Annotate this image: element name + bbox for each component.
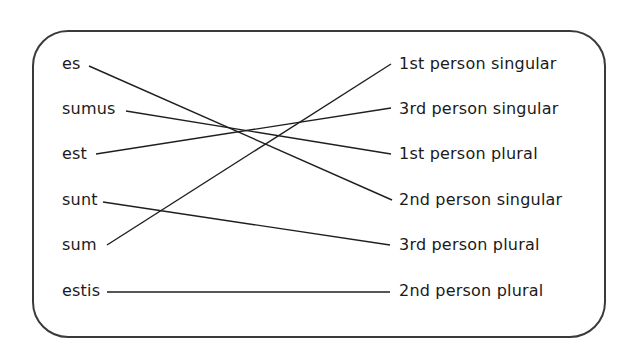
right-item-3rd-person-singular: 3rd person singular xyxy=(399,99,559,119)
right-item-1st-person-plural: 1st person plural xyxy=(399,144,538,164)
left-item-es: es xyxy=(62,54,81,74)
right-item-2nd-person-singular: 2nd person singular xyxy=(399,190,562,210)
right-item-1st-person-singular: 1st person singular xyxy=(399,54,557,74)
connector-es-to-2sg xyxy=(89,66,392,200)
connector-sumus-to-1pl xyxy=(126,111,391,154)
connector-sum-to-1sg xyxy=(107,64,391,245)
right-item-3rd-person-plural: 3rd person plural xyxy=(399,235,540,255)
left-item-sunt: sunt xyxy=(62,190,98,210)
left-item-sum: sum xyxy=(62,235,97,255)
connector-sunt-to-3pl xyxy=(103,202,390,245)
left-item-estis: estis xyxy=(62,281,100,301)
right-item-2nd-person-plural: 2nd person plural xyxy=(399,281,543,301)
left-item-sumus: sumus xyxy=(62,99,116,119)
left-item-est: est xyxy=(62,144,87,164)
